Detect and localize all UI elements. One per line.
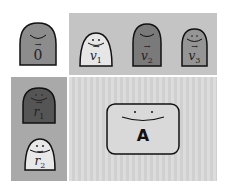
- arrow-icon: →: [132, 42, 162, 51]
- row-r2-character: → r2: [24, 138, 56, 171]
- vector-subscript: 2: [148, 56, 153, 65]
- vector-symbol: v: [141, 49, 148, 63]
- row-subscript: 2: [40, 161, 45, 170]
- zero-vector-character: → 0: [18, 22, 58, 66]
- arrow-icon: →: [18, 40, 58, 49]
- row-r1-character: → r1: [22, 87, 56, 124]
- row-subscript: 1: [39, 112, 44, 121]
- arrow-icon: →: [22, 98, 56, 107]
- zero-vector-label: 0: [34, 47, 43, 63]
- arrow-icon: →: [181, 42, 208, 51]
- matrix-label: A: [106, 126, 180, 145]
- matrix-a-character: A: [106, 103, 180, 155]
- vector-v2-character: → v2: [132, 23, 162, 67]
- vector-symbol: v: [90, 49, 97, 63]
- vector-subscript: 1: [97, 56, 102, 65]
- vector-v1-character: → v1: [79, 32, 113, 67]
- arrow-icon: →: [24, 147, 56, 156]
- vector-subscript: 3: [195, 56, 200, 65]
- arrow-icon: →: [79, 42, 113, 51]
- vector-v3-character: → v3: [181, 28, 208, 67]
